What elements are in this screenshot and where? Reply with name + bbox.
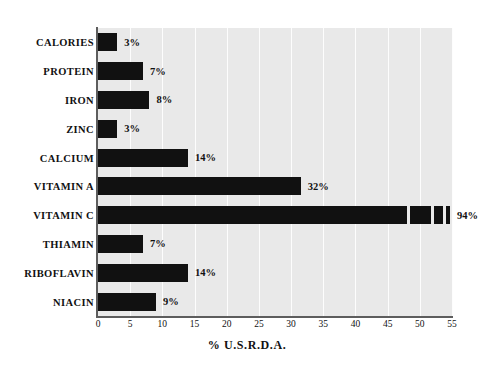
x-tick-label: 25 [244,319,274,329]
bar-group: 32% [98,177,329,195]
bar-group: 9% [98,293,179,311]
bar [98,206,407,224]
x-tick-label: 15 [180,319,210,329]
category-label: VITAMIN A [0,181,94,192]
x-axis-line [96,316,453,318]
bar-value-label: 3% [124,37,140,48]
x-axis-ticks: 0510152025303540455055 [0,319,494,335]
bar-group: 3% [98,120,140,138]
x-tick-label: 5 [115,319,145,329]
bar-row: IRON8% [0,86,494,115]
x-tick-label: 10 [147,319,177,329]
category-label: THIAMIN [0,238,94,249]
bar-row: VITAMIN C94% [0,201,494,230]
x-tick-label: 50 [405,319,435,329]
x-axis-title: % U.S.R.D.A. [0,338,494,353]
bar-group: 14% [98,149,216,167]
bar-row: VITAMIN A32% [0,172,494,201]
bar-group: 8% [98,91,172,109]
bar-group: 14% [98,264,216,282]
bar-row: PROTEIN7% [0,57,494,86]
bar-row: CALORIES3% [0,28,494,57]
bar [410,206,431,224]
x-tick-label: 55 [437,319,467,329]
bar [434,206,443,224]
bar [98,264,188,282]
bar [98,33,117,51]
x-tick-label: 30 [276,319,306,329]
x-tick-label: 35 [308,319,338,329]
category-label: RIBOFLAVIN [0,267,94,278]
bar-value-label: 14% [195,267,216,278]
bar-value-label: 7% [150,66,166,77]
bar-group: 3% [98,33,140,51]
bar-row: CALCIUM14% [0,143,494,172]
bar-row: THIAMIN7% [0,230,494,259]
category-label: PROTEIN [0,66,94,77]
bar-row: RIBOFLAVIN14% [0,258,494,287]
bar-row: NIACIN9% [0,287,494,316]
bar-group: 7% [98,235,166,253]
bar-value-label: 32% [308,181,329,192]
bar [98,149,188,167]
bar-chart: CALORIES3%PROTEIN7%IRON8%ZINC3%CALCIUM14… [0,0,494,366]
bar [446,206,451,224]
bar [98,235,143,253]
category-label: CALCIUM [0,152,94,163]
bar [98,62,143,80]
bar-value-label: 3% [124,123,140,134]
x-tick-label: 0 [83,319,113,329]
bar-row: ZINC3% [0,114,494,143]
bar-value-label: 9% [163,296,179,307]
bar [98,293,156,311]
x-tick-label: 45 [373,319,403,329]
bar-rows: CALORIES3%PROTEIN7%IRON8%ZINC3%CALCIUM14… [0,28,494,316]
bar-value-label: 8% [156,94,172,105]
bar-value-label: 94% [457,210,478,221]
bar-group: 7% [98,62,166,80]
bar-group: 94% [98,206,478,224]
bar [98,177,301,195]
bar-value-label: 14% [195,152,216,163]
x-tick-label: 20 [212,319,242,329]
bar [98,120,117,138]
category-label: NIACIN [0,296,94,307]
x-tick-label: 40 [340,319,370,329]
category-label: IRON [0,94,94,105]
category-label: VITAMIN C [0,210,94,221]
bar [98,91,149,109]
category-label: ZINC [0,123,94,134]
bar-value-label: 7% [150,238,166,249]
category-label: CALORIES [0,37,94,48]
